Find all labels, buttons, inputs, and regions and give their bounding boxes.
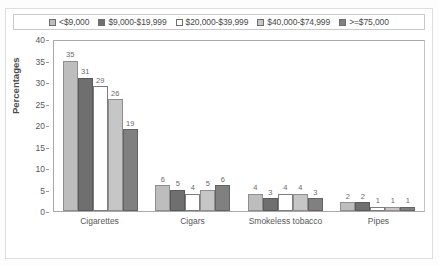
bar-slot: 3 [263,41,278,211]
y-axis-tick-label: 15 [36,143,45,152]
bar-slot: 6 [155,41,170,211]
legend-item[interactable]: $40,000-$74,999 [257,17,330,27]
legend-swatch-icon [176,19,183,26]
bar[interactable] [370,207,385,211]
bar-slot: 19 [123,41,138,211]
y-axis-tick-label: 20 [36,122,45,131]
bar[interactable] [308,198,323,211]
bar-slot: 1 [385,41,400,211]
bar-value-label: 4 [253,184,257,192]
bar-cluster: 65456 [155,41,230,211]
legend-label: >=$75,000 [349,17,389,27]
bar-slot: 31 [78,41,93,211]
bar-value-label: 29 [96,77,104,85]
bar-group: 3531292619 [54,41,147,211]
bar-value-label: 35 [66,51,74,59]
x-axis-tick-label: Cigarettes [53,216,146,232]
x-axis-tick-label: Cigars [146,216,239,232]
bar[interactable] [248,194,263,211]
bar-cluster: 22111 [340,41,415,211]
bar[interactable] [93,86,108,211]
y-axis-tick-label: 35 [36,57,45,66]
y-axis-tick-mark [46,83,49,84]
bar-value-label: 5 [206,180,210,188]
legend-swatch-icon [339,19,346,26]
bar-value-label: 1 [376,197,380,205]
legend-label: $40,000-$74,999 [267,17,330,27]
bar[interactable] [185,194,200,211]
bar-cluster: 43443 [248,41,323,211]
bar-groups: 3531292619654564344322111 [54,41,424,211]
bar[interactable] [293,194,308,211]
y-axis-tick-mark [46,169,49,170]
bar[interactable] [170,190,185,212]
legend-swatch-icon [49,19,56,26]
bar-value-label: 1 [406,197,410,205]
bar-slot: 35 [63,41,78,211]
y-axis-tick-mark [46,105,49,106]
bar-cluster: 3531292619 [63,41,138,211]
bar-slot: 5 [200,41,215,211]
legend-label: <$9,000 [59,17,89,27]
y-axis-tick-label: 5 [40,186,45,195]
y-axis-title: Percentages [10,57,21,114]
legend-item[interactable]: $9,000-$19,999 [98,17,166,27]
x-axis-tick-label: Pipes [332,216,425,232]
y-axis-tick-label: 40 [36,36,45,45]
bar-slot: 1 [370,41,385,211]
bar-slot: 2 [355,41,370,211]
bar-slot: 2 [340,41,355,211]
bar-slot: 26 [108,41,123,211]
bar[interactable] [200,190,215,212]
bar[interactable] [215,185,230,211]
bar-value-label: 4 [191,184,195,192]
bar-slot: 29 [93,41,108,211]
bar-value-label: 2 [361,193,365,201]
x-axis-labels: CigarettesCigarsSmokeless tobaccoPipes [53,216,425,232]
legend-label: $20,000-$39,999 [186,17,249,27]
legend-swatch-icon [98,19,105,26]
legend-item[interactable]: $20,000-$39,999 [176,17,249,27]
bar[interactable] [400,207,415,211]
bar-value-label: 3 [268,189,272,197]
bar-group: 43443 [239,41,332,211]
bar[interactable] [278,194,293,211]
y-axis-tick-mark [46,148,49,149]
y-axis-tick-label: 30 [36,79,45,88]
bar-value-label: 2 [346,193,350,201]
legend-item[interactable]: <$9,000 [49,17,89,27]
y-axis-tick-mark [46,212,49,213]
bar[interactable] [78,78,93,211]
bar-value-label: 3 [313,189,317,197]
y-axis-tick-mark [46,40,49,41]
y-axis-tick-mark [46,191,49,192]
bar-group: 65456 [147,41,240,211]
y-axis-tick-label: 25 [36,100,45,109]
bar-value-label: 5 [176,180,180,188]
bar-slot: 4 [278,41,293,211]
bar-group: 22111 [332,41,425,211]
bar-value-label: 6 [221,176,225,184]
x-axis-tick-label: Smokeless tobacco [239,216,332,232]
bar[interactable] [123,129,138,211]
bar[interactable] [155,185,170,211]
bar[interactable] [355,202,370,211]
bar-value-label: 19 [126,120,134,128]
bar[interactable] [63,61,78,212]
bar[interactable] [385,207,400,211]
bar-slot: 4 [293,41,308,211]
bar-value-label: 26 [111,90,119,98]
y-axis-tick-mark [46,126,49,127]
bar-slot: 4 [248,41,263,211]
bar-slot: 4 [185,41,200,211]
bar-value-label: 1 [391,197,395,205]
bar[interactable] [263,198,278,211]
chart-legend: <$9,000$9,000-$19,999$20,000-$39,999$40,… [13,14,425,30]
y-axis-tick-mark [46,62,49,63]
y-axis-tick-label: 10 [36,165,45,174]
bar-slot: 5 [170,41,185,211]
bar[interactable] [340,202,355,211]
bar[interactable] [108,99,123,211]
legend-item[interactable]: >=$75,000 [339,17,389,27]
bar-value-label: 4 [298,184,302,192]
